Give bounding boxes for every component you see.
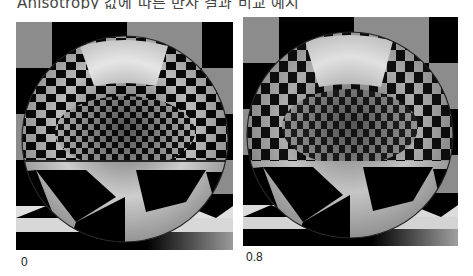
caption-clip: Anisotropy 값에 따른 반사 결과 비교 예시 [0,0,473,9]
panel-label-left: 0 [21,255,28,269]
sphere-render-image [243,17,458,246]
render-panel-anisotropy-0 [16,22,233,250]
render-panel-anisotropy-0-8 [243,17,458,246]
panel-label-right: 0.8 [246,250,263,264]
figure-caption: Anisotropy 값에 따른 반사 결과 비교 예시 [17,0,299,9]
sphere-render-image [16,22,233,250]
